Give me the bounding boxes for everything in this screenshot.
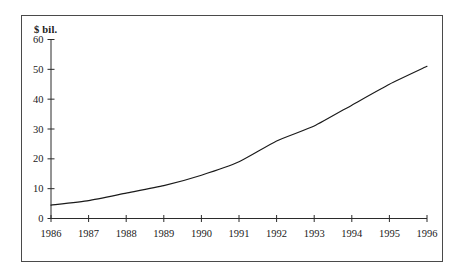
y-axis-tick-label: 10 [22,183,44,194]
x-axis-tick-label: 1987 [69,228,109,239]
x-axis-tick-label: 1993 [294,228,334,239]
chart-series-group [51,66,427,205]
x-axis-tick-label: 1994 [332,228,372,239]
y-axis-tick-label: 60 [22,34,44,45]
y-axis-tick-label: 50 [22,64,44,75]
y-axis-tick-label: 40 [22,94,44,105]
x-axis-tick-label: 1995 [369,228,409,239]
chart-axes [51,40,427,219]
x-axis-tick-label: 1989 [144,228,184,239]
x-axis-tick-label: 1992 [257,228,297,239]
x-axis-tick-label: 1988 [106,228,146,239]
x-axis-tick-label: 1990 [181,228,221,239]
chart-figure: $ bil. 0102030405060 1986198719881989199… [0,0,460,278]
chart-line-series [51,66,427,205]
x-axis-tick-label: 1991 [219,228,259,239]
y-axis-tick-label: 20 [22,153,44,164]
x-axis-tick-label: 1986 [31,228,71,239]
y-axis-tick-label: 30 [22,124,44,135]
x-axis-tick-label: 1996 [407,228,447,239]
y-axis-tick-label: 0 [22,213,44,224]
